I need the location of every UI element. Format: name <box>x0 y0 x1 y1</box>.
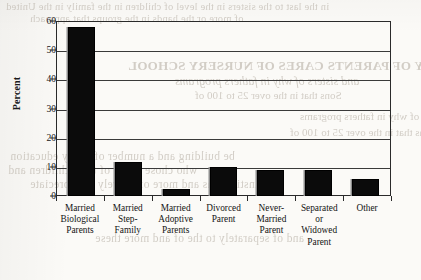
x-axis-category-label-line: Divorced <box>201 203 247 214</box>
x-axis-tick-mark <box>343 196 344 201</box>
x-axis-category-label-line: or <box>296 214 342 225</box>
x-axis-category-label: Other <box>343 203 391 248</box>
x-axis-tick-mark <box>247 196 248 201</box>
x-axis-category-label-line: Step- <box>105 214 151 225</box>
x-axis-category-label-line: Biological <box>57 214 103 225</box>
x-axis-category-label: MarriedStep-Family <box>104 203 152 248</box>
x-axis-category-label-line: Parent <box>296 237 342 248</box>
x-axis-tick-mark <box>152 196 153 201</box>
x-axis-category-label-line: Married <box>105 203 151 214</box>
x-axis-category-label-line: Separated <box>296 203 342 214</box>
x-axis-ticks <box>56 196 391 201</box>
bar-slot <box>200 21 247 196</box>
x-axis-tick-mark <box>295 196 296 201</box>
x-axis-category-label: MarriedBiologicalParents <box>56 203 104 248</box>
x-axis-category-label-line: Married <box>248 214 294 225</box>
x-axis-tick-mark <box>200 196 201 201</box>
x-axis-category-label: DivorcedParent <box>200 203 248 248</box>
x-axis-category-label-line: Widowed <box>296 225 342 236</box>
bar-slot <box>342 21 389 196</box>
bar <box>305 170 332 196</box>
x-axis-category-label: SeparatedorWidowedParent <box>295 203 343 248</box>
x-axis-category-label-line: Parent <box>248 225 294 236</box>
x-axis-category-label-line: Married <box>153 203 199 214</box>
x-axis-category-label-line: Parents <box>57 225 103 236</box>
x-axis-category-label-line: Adoptive <box>153 214 199 225</box>
y-axis: 0102030405060 <box>22 21 56 196</box>
bar <box>210 167 237 196</box>
x-axis-category-label: MarriedAdoptiveParents <box>152 203 200 248</box>
bar-chart: Percent 0102030405060 MarriedBiologicalP… <box>0 0 421 280</box>
x-axis-tick-mark <box>391 196 392 201</box>
x-axis-tick-mark <box>104 196 105 201</box>
bar <box>115 162 142 196</box>
bar <box>68 27 95 196</box>
x-axis-category-label-line: Other <box>344 203 390 214</box>
x-axis-category-label: Never-MarriedParent <box>247 203 295 248</box>
x-axis-tick-mark <box>56 196 57 201</box>
x-axis-category-label-line: Never- <box>248 203 294 214</box>
x-axis-category-label-line: Parent <box>201 214 247 225</box>
bar <box>257 170 284 196</box>
x-axis-category-label-line: Family <box>105 225 151 236</box>
y-axis-title: Percent <box>11 59 22 129</box>
bar-slot <box>58 21 105 196</box>
bar-slot <box>294 21 341 196</box>
x-axis-category-label-line: Parents <box>153 225 199 236</box>
bar-slot <box>153 21 200 196</box>
bars-container <box>56 21 391 196</box>
bar <box>352 179 379 197</box>
bar-slot <box>105 21 152 196</box>
bar-slot <box>247 21 294 196</box>
x-axis-category-label-line: Married <box>57 203 103 214</box>
bar <box>163 189 190 196</box>
x-axis-labels: MarriedBiologicalParentsMarriedStep-Fami… <box>56 203 391 248</box>
